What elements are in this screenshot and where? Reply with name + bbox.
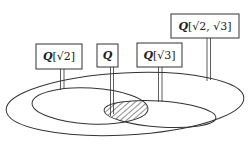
label-q-sqrt3: Q[√3] bbox=[137, 43, 182, 67]
svg-text:Q[√3]: Q[√3] bbox=[143, 49, 175, 62]
svg-text:Q: Q bbox=[103, 49, 113, 62]
label-q-sqrt2-sqrt3: Q[√2, √3] bbox=[171, 14, 239, 38]
svg-text:Q[√2, √3]: Q[√2, √3] bbox=[178, 20, 231, 33]
label-q-sqrt2: Q[√2] bbox=[36, 44, 82, 69]
label-q: Q bbox=[97, 44, 118, 67]
field-diagram: Q[√2] Q Q[√3] Q[√2, √3] bbox=[0, 0, 249, 145]
svg-text:Q[√2]: Q[√2] bbox=[43, 50, 75, 63]
